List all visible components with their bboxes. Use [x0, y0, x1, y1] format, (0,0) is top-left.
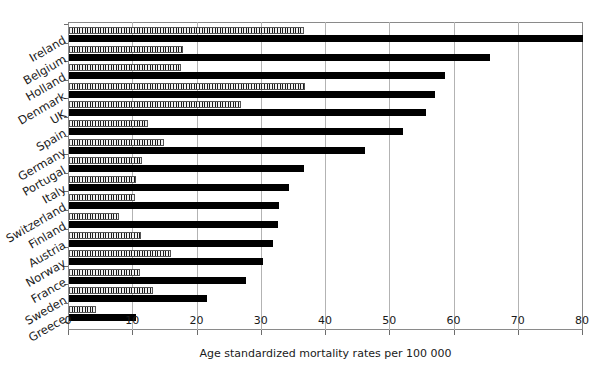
bar-male-denmark — [69, 91, 435, 98]
bar-male-norway — [69, 258, 263, 265]
bar-male-ireland — [69, 35, 583, 42]
bar-female-switzerland — [69, 194, 135, 201]
x-tick-label: 60 — [447, 314, 461, 327]
x-tick-label: 30 — [254, 314, 268, 327]
bar-male-germany — [69, 147, 365, 154]
x-tick — [132, 330, 133, 335]
gridline — [325, 22, 326, 330]
chart-figure: IrelandBelgiumHollandDenmarkUKSpainGerma… — [0, 0, 597, 371]
bar-male-finland — [69, 221, 278, 228]
bar-female-norway — [69, 250, 171, 257]
bar-female-greece — [69, 306, 96, 313]
bar-male-switzerland — [69, 202, 279, 209]
x-tick-label: 20 — [190, 314, 204, 327]
x-tick-label: 50 — [382, 314, 396, 327]
x-tick-label: 40 — [318, 314, 332, 327]
bar-male-holland — [69, 72, 445, 79]
bar-male-spain — [69, 128, 403, 135]
x-tick — [197, 330, 198, 335]
x-axis-title: Age standardized mortality rates per 100… — [68, 347, 583, 360]
x-tick — [261, 330, 262, 335]
x-tick — [325, 330, 326, 335]
x-tick — [518, 330, 519, 335]
bar-female-ireland — [69, 27, 304, 34]
plot-border-right — [582, 22, 583, 330]
bar-female-france — [69, 269, 140, 276]
x-tick — [582, 330, 583, 335]
bar-male-italy — [69, 184, 289, 191]
bar-female-sweden — [69, 287, 153, 294]
y-tick — [64, 24, 68, 25]
bar-female-austria — [69, 232, 141, 239]
plot-area — [68, 22, 583, 330]
x-tick — [389, 330, 390, 335]
bar-female-italy — [69, 176, 136, 183]
bar-female-belgium — [69, 46, 183, 53]
gridline — [197, 22, 198, 330]
x-tick-label: 0 — [65, 314, 72, 327]
bar-female-holland — [69, 64, 181, 71]
bar-male-austria — [69, 240, 273, 247]
bar-male-sweden — [69, 295, 207, 302]
bar-female-portugal — [69, 157, 142, 164]
x-tick-label: 70 — [511, 314, 525, 327]
gridline — [389, 22, 390, 330]
bar-female-finland — [69, 213, 119, 220]
gridline — [261, 22, 262, 330]
x-tick — [68, 330, 69, 335]
bar-male-portugal — [69, 165, 304, 172]
bar-male-france — [69, 277, 246, 284]
bar-female-uk — [69, 101, 241, 108]
bar-male-uk — [69, 109, 426, 116]
bar-female-denmark — [69, 83, 305, 90]
bar-female-spain — [69, 120, 148, 127]
gridline — [454, 22, 455, 330]
x-tick-label: 10 — [125, 314, 139, 327]
bar-female-germany — [69, 139, 164, 146]
x-tick — [454, 330, 455, 335]
bar-male-belgium — [69, 54, 490, 61]
gridline — [518, 22, 519, 330]
x-tick-label: 80 — [575, 314, 589, 327]
